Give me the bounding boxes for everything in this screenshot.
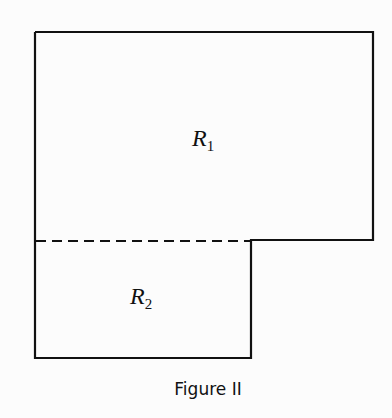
- r1-letter: R: [192, 125, 207, 151]
- outline: [35, 32, 373, 358]
- figure-caption: Figure II: [0, 379, 392, 399]
- r2-subscript: 2: [145, 296, 153, 312]
- r1-subscript: 1: [207, 138, 215, 154]
- region-label-r1: R1: [192, 125, 214, 155]
- region-label-r2: R2: [130, 283, 152, 313]
- region-diagram: [0, 0, 392, 418]
- r2-letter: R: [130, 283, 145, 309]
